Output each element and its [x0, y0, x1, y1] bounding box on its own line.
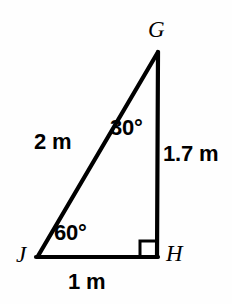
- vertex-label-j: J: [16, 243, 26, 266]
- angle-label-g: 30°: [110, 117, 143, 139]
- side-length-label-jh: 1 m: [68, 271, 105, 293]
- vertex-label-h: H: [166, 242, 183, 265]
- side-length-label-jg: 2 m: [34, 131, 71, 153]
- vertex-label-g: G: [148, 18, 165, 41]
- angle-label-j: 60°: [54, 222, 87, 244]
- side-length-label-gh: 1.7 m: [163, 143, 218, 165]
- right-angle-marker-icon: [140, 241, 157, 257]
- side-GH-line: [157, 52, 158, 257]
- geometry-figure: G H J 2 m 1.7 m 1 m 30° 60°: [0, 0, 232, 304]
